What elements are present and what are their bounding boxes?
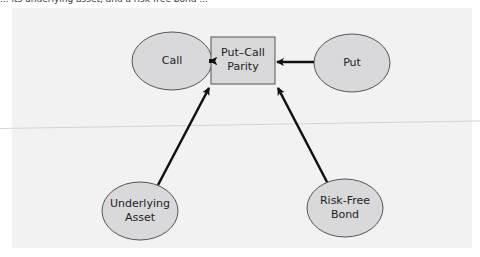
- call-label: Call: [132, 54, 212, 68]
- call-main-arrow: [0, 0, 480, 257]
- risk-free-bond-label: Risk-Free Bond: [307, 194, 383, 222]
- put-call-parity-label: Put–Call Parity: [211, 46, 275, 74]
- put-label: Put: [314, 56, 390, 70]
- underlying-asset-label: Underlying Asset: [102, 197, 178, 225]
